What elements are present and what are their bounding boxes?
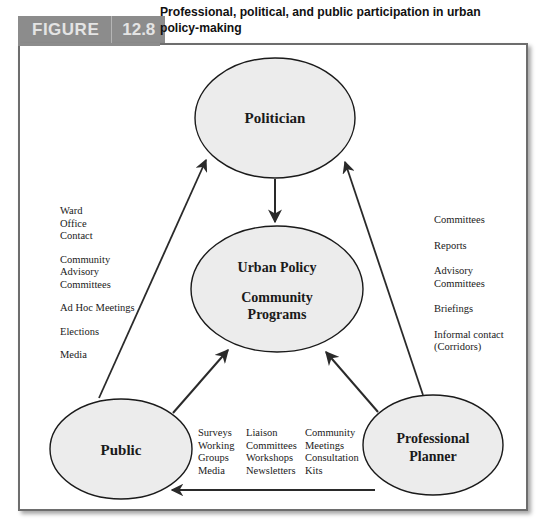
channel-item: Ward bbox=[60, 205, 135, 218]
planner-public-col1: Surveys Working Groups Media bbox=[198, 427, 234, 477]
channel-item: Media bbox=[198, 465, 234, 478]
arrow-public-to-policy bbox=[173, 350, 228, 413]
public-label: Public bbox=[101, 442, 142, 458]
channel-item: Informal contact bbox=[434, 329, 504, 342]
programs-label: Programs bbox=[248, 307, 307, 322]
channel-item: Committees bbox=[60, 279, 135, 292]
channel-item: Groups bbox=[198, 452, 234, 465]
channel-item: Community bbox=[60, 254, 135, 267]
channel-item: Media bbox=[60, 349, 135, 362]
channel-item: Elections bbox=[60, 326, 135, 339]
channel-item: Meetings bbox=[305, 440, 359, 453]
planner-public-col3: Community Meetings Consultation Kits bbox=[305, 427, 359, 477]
planner-label: Planner bbox=[409, 449, 456, 464]
channel-item: Advisory bbox=[434, 265, 504, 278]
channel-item: Committees bbox=[434, 214, 504, 227]
channel-item: Ad Hoc Meetings bbox=[60, 302, 135, 315]
politician-label: Politician bbox=[245, 110, 306, 126]
urban-policy-node bbox=[191, 226, 363, 352]
channel-item: Contact bbox=[60, 230, 135, 243]
channel-item: Committees bbox=[246, 440, 297, 453]
channel-item: (Corridors) bbox=[434, 341, 504, 354]
channel-item: Surveys bbox=[198, 427, 234, 440]
channel-item: Newsletters bbox=[246, 465, 297, 478]
urban-policy-label: Urban Policy bbox=[238, 260, 317, 275]
channel-item: Kits bbox=[305, 465, 359, 478]
planner-public-col2: Liaison Committees Workshops Newsletters bbox=[246, 427, 297, 477]
public-politician-channels: Ward Office Contact Community Advisory C… bbox=[60, 205, 135, 362]
community-label: Community bbox=[241, 290, 313, 305]
professional-label: Professional bbox=[397, 431, 470, 446]
channel-item: Liaison bbox=[246, 427, 297, 440]
arrow-planner-to-policy bbox=[326, 352, 378, 412]
channel-item: Workshops bbox=[246, 452, 297, 465]
channel-item: Community bbox=[305, 427, 359, 440]
channel-item: Consultation bbox=[305, 452, 359, 465]
channel-item: Briefings bbox=[434, 303, 504, 316]
channel-item: Committees bbox=[434, 278, 504, 291]
channel-item: Office bbox=[60, 218, 135, 231]
channel-item: Advisory bbox=[60, 266, 135, 279]
channel-item: Reports bbox=[434, 240, 504, 253]
planner-politician-channels: Committees Reports Advisory Committees B… bbox=[434, 214, 504, 354]
channel-item: Working bbox=[198, 440, 234, 453]
